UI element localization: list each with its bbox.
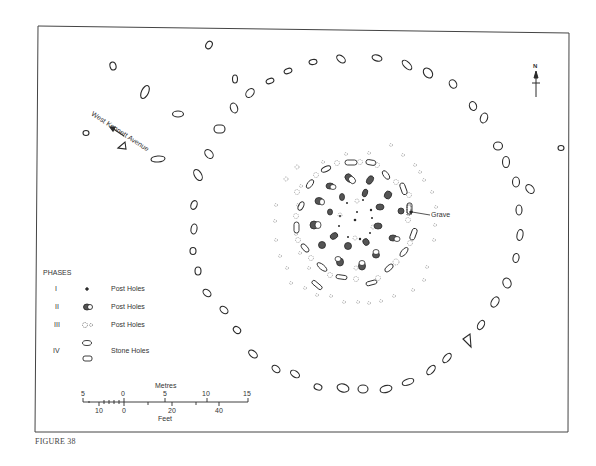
- map-frame-border: [35, 26, 569, 432]
- figure-caption: FIGURE 38: [35, 437, 76, 446]
- north-arrow-icon: [532, 71, 540, 97]
- legend-phase-i-label: Post Holes: [111, 285, 145, 292]
- grave-marker: [407, 205, 430, 215]
- scale-feet-label: Feet: [158, 415, 172, 422]
- legend-phase-ii-label: Post Holes: [111, 303, 145, 310]
- scale-feet-tick: 40: [215, 407, 223, 414]
- legend-symbols: [83, 288, 93, 361]
- scale-metres-tick: 15: [243, 390, 251, 397]
- legend-phase-iii: III: [54, 321, 60, 328]
- scale-feet-tick: 10: [95, 407, 103, 414]
- scale-metres-tick: 10: [202, 390, 210, 397]
- scale-metres-tick: 0: [121, 390, 125, 397]
- phase-i-postholes: [338, 199, 373, 240]
- legend-phase-iv-label: Stone Holes: [111, 347, 149, 354]
- legend-phase-iv: IV: [53, 347, 60, 354]
- site-plan: [0, 0, 596, 466]
- legend-phase-ii: II: [55, 303, 59, 310]
- grave-label: Grave: [431, 211, 450, 218]
- outer-stone-circle: [190, 40, 564, 394]
- scale-metres-tick: 5: [81, 390, 85, 397]
- scale-feet-tick: 20: [168, 407, 176, 414]
- scale-metres-label: Metres: [155, 382, 176, 389]
- north-label: N: [533, 63, 537, 69]
- outer-posthole-ring: [274, 144, 438, 305]
- scale-bar: [83, 398, 248, 406]
- legend-phase-i-symbol: [86, 288, 89, 291]
- phase-ii-postholes: [310, 172, 404, 270]
- legend-title: PHASES: [43, 269, 71, 276]
- scale-feet-tick: 0: [122, 407, 126, 414]
- scale-metres-tick: 5: [163, 390, 167, 397]
- legend-phase-i: I: [55, 285, 57, 292]
- legend-phase-iii-label: Post Holes: [111, 321, 145, 328]
